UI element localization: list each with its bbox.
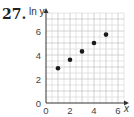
x-tick-label: 6 <box>115 105 120 116</box>
x-axis-label: x <box>123 103 130 114</box>
x-tick-label: 4 <box>91 105 96 116</box>
data-point <box>104 32 109 37</box>
data-point <box>92 41 97 46</box>
y-tick-label: 2 <box>36 74 41 85</box>
data-point <box>68 58 73 63</box>
y-tick-label: 4 <box>36 50 41 61</box>
x-tick-label: 0 <box>43 105 48 116</box>
x-tick-label: 2 <box>67 105 72 116</box>
scatter-chart: 02460246 ln y x <box>0 0 134 116</box>
grid <box>46 13 124 103</box>
y-tick-label: 0 <box>36 98 41 109</box>
data-point <box>56 66 61 71</box>
data-point <box>80 49 85 54</box>
y-tick-label: 6 <box>36 26 41 37</box>
tick-labels: 02460246 <box>36 26 121 117</box>
y-axis-label: ln y <box>29 6 45 17</box>
